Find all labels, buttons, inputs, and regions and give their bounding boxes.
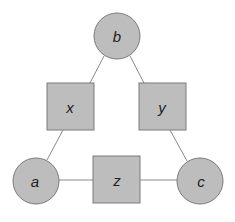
node-a: a xyxy=(13,158,59,204)
node-a-label: a xyxy=(31,173,39,190)
edge-b-y xyxy=(130,56,144,83)
edge-y-c xyxy=(170,130,187,161)
node-c-label: c xyxy=(197,173,205,190)
edge-b-x xyxy=(90,56,104,83)
node-c: c xyxy=(177,158,223,204)
node-x: x xyxy=(47,83,94,130)
edge-x-a xyxy=(47,130,63,160)
node-b-label: b xyxy=(113,28,121,45)
node-z: z xyxy=(93,156,140,203)
node-y: y xyxy=(139,83,186,130)
node-b: b xyxy=(94,13,140,59)
factor-graph-diagram: b x y a z c xyxy=(0,0,235,222)
node-z-label: z xyxy=(112,172,121,189)
node-x-label: x xyxy=(65,99,74,116)
